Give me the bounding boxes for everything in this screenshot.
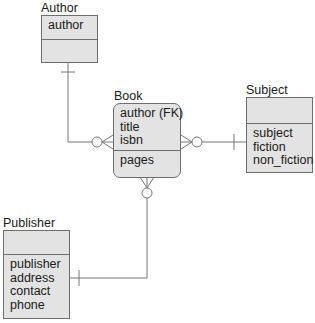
- author-book-relationship: [61, 62, 113, 149]
- attribute: non_fiction: [253, 154, 312, 168]
- crowfoot-icon: [181, 135, 192, 142]
- entity-title-publisher: Publisher: [3, 216, 55, 230]
- attribute: address: [10, 272, 69, 286]
- book-subject-relationship: [181, 134, 246, 150]
- entity-publisher[interactable]: publisher address contact phone: [3, 230, 70, 319]
- key-attributes: author: [42, 16, 97, 40]
- entity-title-subject: Subject: [246, 83, 288, 97]
- entity-subject[interactable]: subject fiction non_fiction: [246, 97, 313, 173]
- zero-circle-icon: [92, 137, 102, 147]
- entity-title-book: Book: [114, 89, 143, 103]
- crowfoot-icon: [140, 177, 147, 188]
- attribute: author (FK): [120, 107, 180, 121]
- crowfoot-icon: [102, 135, 113, 142]
- attribute: fiction: [253, 141, 312, 155]
- attribute: isbn: [120, 134, 180, 148]
- attributes: publisher address contact phone: [4, 255, 69, 312]
- divider: [42, 39, 97, 40]
- attribute: title: [120, 121, 180, 135]
- attribute: pages: [120, 154, 180, 168]
- attributes: subject fiction non_fiction: [247, 124, 312, 168]
- entity-author[interactable]: author: [41, 15, 98, 63]
- attribute: phone: [10, 299, 69, 313]
- attribute: subject: [253, 127, 312, 141]
- zero-circle-icon: [192, 137, 202, 147]
- book-publisher-relationship: [70, 177, 154, 286]
- attributes: pages: [114, 151, 180, 168]
- attribute: contact: [10, 285, 69, 299]
- attribute: author: [48, 19, 97, 33]
- entity-book[interactable]: author (FK) title isbn pages: [113, 103, 181, 178]
- zero-circle-icon: [142, 188, 152, 198]
- entity-title-author: Author: [41, 1, 78, 15]
- key-attributes: author (FK) title isbn: [114, 104, 180, 148]
- attribute: publisher: [10, 258, 69, 272]
